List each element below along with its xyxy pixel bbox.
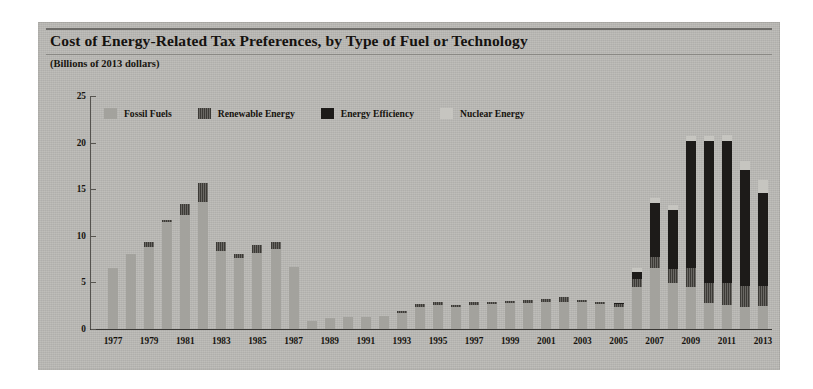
bar-segment-renew — [668, 269, 678, 283]
axis-units-label: (Billions of 2013 dollars) — [50, 58, 159, 69]
y-axis-tick-mark — [91, 189, 96, 190]
x-axis-tick-label: 2001 — [537, 336, 556, 346]
bar-segment-fossil — [758, 306, 768, 328]
x-axis-tick-label: 1999 — [501, 336, 520, 346]
plot-area: 0510152025197719791981198319851987198919… — [90, 80, 772, 330]
y-axis-tick-mark — [91, 96, 96, 97]
bar-segment-fossil — [650, 268, 660, 328]
bar-segment-fossil — [614, 307, 624, 328]
bar-segment-fossil — [180, 215, 190, 328]
bar-segment-renew — [740, 286, 750, 307]
bar-segment-renew — [722, 283, 732, 305]
bar-1989 — [325, 318, 335, 328]
bar-1994 — [415, 304, 425, 328]
bar-segment-eff — [740, 170, 750, 285]
bar-segment-renew — [650, 257, 660, 268]
bar-2005 — [614, 303, 624, 328]
bar-segment-eff — [722, 141, 732, 283]
x-axis-line — [90, 329, 772, 331]
bar-2006 — [632, 268, 642, 328]
bar-1991 — [361, 317, 371, 328]
bar-segment-fossil — [252, 253, 262, 328]
bar-segment-fossil — [325, 318, 335, 328]
bar-segment-fossil — [162, 222, 172, 328]
bar-segment-renew — [758, 286, 768, 306]
bar-segment-renew — [180, 204, 190, 215]
bar-segment-eff — [650, 203, 660, 257]
bar-1982 — [198, 183, 208, 329]
bar-2001 — [541, 299, 551, 329]
bar-segment-eff — [704, 141, 714, 283]
bar-segment-fossil — [668, 283, 678, 329]
bar-2010 — [704, 136, 714, 328]
y-axis-tick-mark — [91, 143, 96, 144]
x-axis-tick-label: 1991 — [356, 336, 375, 346]
y-axis-tick-label: 15 — [64, 184, 86, 194]
bar-segment-fossil — [577, 302, 587, 328]
bar-1984 — [234, 254, 244, 328]
bar-segment-fossil — [343, 317, 353, 328]
bar-segment-fossil — [379, 316, 389, 328]
bar-segment-fossil — [108, 268, 118, 328]
x-axis-tick-label: 1979 — [140, 336, 159, 346]
bar-1996 — [451, 305, 461, 328]
bar-1988 — [307, 321, 317, 328]
bar-segment-nuc — [740, 161, 750, 170]
bar-segment-fossil — [234, 258, 244, 329]
bar-1983 — [216, 242, 226, 328]
bar-segment-fossil — [704, 303, 714, 328]
bar-1990 — [343, 317, 353, 328]
bar-segment-eff — [758, 193, 768, 286]
title-rule-top — [46, 28, 772, 30]
bar-2013 — [758, 180, 768, 329]
y-axis-tick-mark — [91, 236, 96, 237]
y-axis-tick-label: 10 — [64, 231, 86, 241]
bar-2007 — [650, 198, 660, 328]
bar-segment-fossil — [740, 307, 750, 328]
bar-segment-fossil — [559, 302, 569, 329]
bar-segment-fossil — [198, 202, 208, 328]
x-axis-tick-label: 1995 — [429, 336, 448, 346]
bar-2000 — [523, 300, 533, 329]
x-axis-tick-label: 1997 — [465, 336, 484, 346]
x-axis-tick-label: 2013 — [754, 336, 773, 346]
bar-1993 — [397, 311, 407, 329]
bar-segment-fossil — [505, 303, 515, 328]
x-axis-tick-label: 1987 — [284, 336, 303, 346]
bar-segment-fossil — [415, 307, 425, 328]
y-axis-tick-label: 20 — [64, 138, 86, 148]
bar-1997 — [469, 302, 479, 328]
x-axis-tick-label: 2011 — [718, 336, 736, 346]
bar-segment-fossil — [397, 313, 407, 329]
x-axis-tick-label: 1989 — [320, 336, 339, 346]
bar-1987 — [289, 267, 299, 328]
bar-2002 — [559, 297, 569, 329]
title-rule-bottom — [46, 54, 772, 55]
bar-segment-fossil — [595, 304, 605, 328]
bar-2009 — [686, 136, 696, 328]
bar-1999 — [505, 301, 515, 329]
y-axis-tick-mark — [91, 329, 96, 330]
bar-1998 — [487, 302, 497, 329]
bar-1986 — [271, 242, 281, 328]
bar-segment-fossil — [126, 254, 136, 328]
x-axis-tick-label: 1977 — [104, 336, 123, 346]
x-axis-tick-label: 2009 — [681, 336, 700, 346]
bar-segment-renew — [686, 268, 696, 287]
bar-segment-fossil — [433, 305, 443, 328]
x-axis-tick-label: 1981 — [176, 336, 195, 346]
x-axis-tick-label: 2003 — [573, 336, 592, 346]
bar-segment-eff — [686, 141, 696, 268]
bar-2012 — [740, 161, 750, 328]
bar-segment-eff — [668, 210, 678, 269]
bar-segment-fossil — [307, 321, 317, 328]
bar-segment-renew — [252, 245, 262, 253]
bar-1985 — [252, 245, 262, 329]
bar-segment-fossil — [216, 251, 226, 328]
bar-segment-fossil — [541, 302, 551, 328]
x-axis-tick-label: 2007 — [645, 336, 664, 346]
y-axis-tick-label: 25 — [64, 91, 86, 101]
bar-segment-fossil — [487, 304, 497, 328]
page-title: Cost of Energy-Related Tax Preferences, … — [50, 32, 770, 50]
bar-1981 — [180, 204, 190, 329]
